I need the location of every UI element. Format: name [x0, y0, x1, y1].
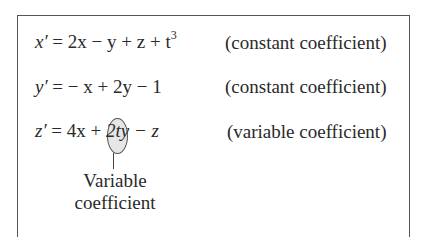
- note-y: (constant coefficient): [225, 76, 387, 98]
- equation-z: z′ = 4x + 2ty − z: [35, 120, 159, 142]
- variable-coefficient-term: 2t: [106, 120, 121, 141]
- equation-y: y′ = − x + 2y − 1: [35, 76, 162, 98]
- callout-label-1: Variable: [60, 170, 170, 192]
- note-z: (variable coefficient): [227, 121, 386, 143]
- note-x: (constant coefficient): [225, 32, 387, 54]
- callout-label-2: coefficient: [60, 192, 170, 214]
- equation-x: x′ = 2x − y + z + t3: [35, 30, 177, 53]
- callout-line: [113, 153, 114, 169]
